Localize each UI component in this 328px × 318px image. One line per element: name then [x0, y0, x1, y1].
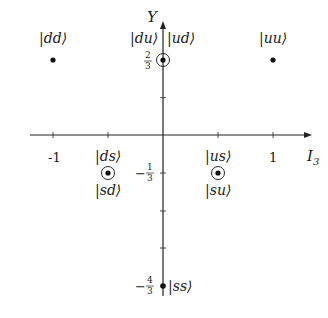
svg-text:1: 1: [147, 162, 153, 172]
state-dot-icon: [270, 57, 275, 62]
svg-text:|sd⟩: |sd⟩: [95, 182, 121, 199]
state-dot-icon: [105, 170, 110, 175]
x-tick-label-1: 1: [269, 150, 277, 165]
state-uu: |uu⟩: [259, 30, 287, 63]
y-tick-label-2-3: 2 3: [144, 50, 152, 71]
state-dot-icon: [215, 170, 220, 175]
state-dot-icon: [160, 57, 165, 62]
svg-text:3: 3: [145, 61, 151, 71]
svg-text:|ss⟩: |ss⟩: [168, 278, 193, 295]
svg-text:4: 4: [147, 275, 153, 285]
state-dot-icon: [50, 57, 55, 62]
x-axis-label: I3: [306, 147, 319, 167]
svg-text:3: 3: [147, 173, 153, 183]
svg-text:|dd⟩: |dd⟩: [39, 30, 67, 47]
diagram-canvas: Y I3 -1 1 2 3 − 1 3 − 4 3 |dd⟩ |uu⟩ |du⟩…: [0, 0, 328, 318]
svg-text:|us⟩: |us⟩: [205, 148, 231, 165]
svg-text:2: 2: [145, 50, 151, 60]
y-axis-label: Y: [147, 8, 159, 26]
svg-text:|du⟩: |du⟩: [130, 30, 158, 47]
x-axis-arrow-icon: [304, 132, 312, 138]
state-dd: |dd⟩: [39, 30, 67, 63]
svg-text:|ud⟩: |ud⟩: [167, 30, 195, 47]
y-tick-label-neg-4-3: − 4 3: [135, 275, 154, 296]
x-axis: [30, 132, 312, 138]
state-ds-sd: |ds⟩ |sd⟩: [95, 148, 121, 199]
svg-text:|ds⟩: |ds⟩: [95, 148, 121, 165]
svg-text:|uu⟩: |uu⟩: [259, 30, 287, 47]
weight-diagram: Y I3 -1 1 2 3 − 1 3 − 4 3 |dd⟩ |uu⟩ |du⟩…: [0, 0, 328, 318]
state-ss: |ss⟩: [160, 278, 192, 295]
state-dot-icon: [160, 283, 166, 289]
x-tick-label-neg1: -1: [48, 150, 61, 165]
state-us-su: |us⟩ |su⟩: [205, 148, 231, 199]
svg-text:−: −: [135, 166, 146, 181]
y-axis-arrow-icon: [160, 21, 166, 29]
svg-text:3: 3: [147, 286, 153, 296]
y-tick-label-neg-1-3: − 1 3: [135, 162, 154, 183]
svg-text:−: −: [135, 279, 146, 294]
svg-text:|su⟩: |su⟩: [205, 182, 231, 199]
